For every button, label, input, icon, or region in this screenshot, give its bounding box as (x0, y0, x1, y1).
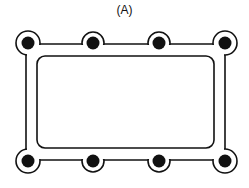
bolt-holes (16, 31, 237, 173)
bolt-hole-icon (87, 155, 100, 168)
bolt-hole-icon (22, 155, 35, 168)
bolt-hole-icon (87, 37, 100, 50)
bolt-hole-icon (22, 37, 35, 50)
bolt-hole-icon (153, 155, 166, 168)
bolt-hole-icon (219, 37, 232, 50)
bolt-hole-icon (153, 37, 166, 50)
bolt-hole-icon (219, 155, 232, 168)
gasket-diagram (0, 0, 249, 188)
inner-window (37, 56, 214, 148)
